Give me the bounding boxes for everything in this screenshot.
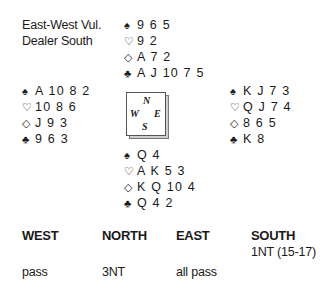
bid-west-1: pass [22,265,48,279]
auction-header-south: SOUTH [251,228,295,243]
heart-icon: ♡ [230,99,243,115]
north-spades: ♠9 6 5 [124,17,205,33]
compass-west: W [130,108,139,119]
compass-east: E [154,108,161,119]
auction-header-north: NORTH [102,228,147,243]
club-icon: ♣ [124,195,137,211]
deal-info: East-West Vul. Dealer South [22,17,101,49]
east-clubs: ♣K 8 [230,131,292,147]
south-diamonds: ◇K Q 10 4 [124,179,196,195]
south-clubs: ♣Q 4 2 [124,195,196,211]
heart-icon: ♡ [124,33,137,49]
compass-box: N W E S [126,92,164,134]
bid-north-1: 3NT [102,265,125,279]
west-hand: ♠A 10 8 2 ♡10 8 6 ◇J 9 3 ♣9 6 3 [22,83,90,147]
south-hearts: ♡A K 5 3 [124,163,196,179]
north-diamonds: ◇A 7 2 [124,49,205,65]
auction-header-west: WEST [22,228,58,243]
east-hand: ♠K J 7 3 ♡Q J 7 4 ◇8 6 5 ♣K 8 [230,83,292,147]
east-spades: ♠K J 7 3 [230,83,292,99]
diamond-icon: ◇ [124,179,137,195]
north-hearts: ♡9 2 [124,33,205,49]
heart-icon: ♡ [124,163,137,179]
diamond-icon: ◇ [230,115,243,131]
dealer-label: Dealer South [22,33,101,49]
bid-east-1: all pass [176,265,217,279]
heart-icon: ♡ [22,99,35,115]
west-diamonds: ◇J 9 3 [22,115,90,131]
north-clubs: ♣A J 10 7 5 [124,65,205,81]
west-hearts: ♡10 8 6 [22,99,90,115]
club-icon: ♣ [230,131,243,147]
spade-icon: ♠ [124,147,137,163]
north-hand: ♠9 6 5 ♡9 2 ◇A 7 2 ♣A J 10 7 5 [124,17,205,81]
club-icon: ♣ [124,65,137,81]
auction-header-east: EAST [176,228,209,243]
club-icon: ♣ [22,131,35,147]
west-spades: ♠A 10 8 2 [22,83,90,99]
compass-north: N [143,95,150,106]
east-hearts: ♡Q J 7 4 [230,99,292,115]
west-clubs: ♣9 6 3 [22,131,90,147]
east-diamonds: ◇8 6 5 [230,115,292,131]
compass-south: S [142,121,148,132]
south-spades: ♠Q 4 [124,147,196,163]
spade-icon: ♠ [22,83,35,99]
south-hand: ♠Q 4 ♡A K 5 3 ◇K Q 10 4 ♣Q 4 2 [124,147,196,211]
spade-icon: ♠ [124,17,137,33]
compass-face: N W E S [126,92,166,136]
vulnerability-label: East-West Vul. [22,17,101,33]
diamond-icon: ◇ [124,49,137,65]
bid-south-1: 1NT (15-17) [251,245,316,259]
diamond-icon: ◇ [22,115,35,131]
spade-icon: ♠ [230,83,243,99]
